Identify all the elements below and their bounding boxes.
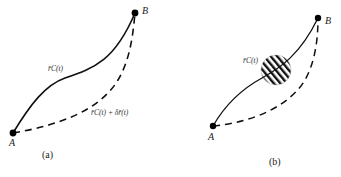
solid-curve-label: r̄C(t)	[48, 64, 63, 73]
dashed-curve-label: r̄C(t) + δr̄(t)	[91, 108, 128, 117]
point-a-label: A	[9, 137, 15, 148]
caption-b: (b)	[269, 156, 281, 167]
solid-curve-label: r̄C(t)	[243, 56, 258, 65]
point-b-label: B	[142, 5, 148, 16]
point-b-label: B	[325, 15, 331, 26]
panel-a	[10, 10, 139, 137]
point-a-marker	[210, 123, 216, 129]
point-b-marker	[315, 15, 321, 21]
point-a-label: A	[208, 131, 214, 142]
panel-b	[210, 15, 321, 129]
point-b-marker	[132, 10, 139, 17]
point-a-marker	[10, 130, 17, 137]
caption-a: (a)	[42, 149, 53, 160]
